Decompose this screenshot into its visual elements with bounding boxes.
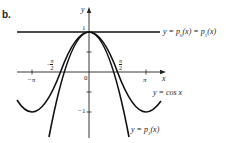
y-axis-arrow-icon [87, 7, 91, 13]
origin-label: 0 [84, 75, 88, 82]
y-tick-label-1: 1 [82, 25, 86, 32]
y-tick-label-neg1: −1 [78, 108, 85, 115]
panel-label: b. [2, 10, 11, 20]
label-cos: y = cos x [153, 89, 182, 97]
plot-canvas [0, 0, 226, 143]
x-tick-label-pi: π [143, 77, 147, 84]
label-p0-p1: y = p0(x) = p1(x) [163, 28, 216, 38]
x-tick-label-pi-half: π 2 [119, 58, 122, 71]
x-tick-label-neg-pi: −π [27, 77, 35, 84]
x-tick-label-neg-pi-half: − π 2 [47, 58, 53, 71]
y-axis-label: y [81, 6, 85, 14]
x-axis-label: x [162, 75, 166, 83]
label-p2: y = p2(x) [131, 126, 159, 136]
figure: b. y x 1 −1 0 −π π − π 2 π 2 y = p0(x) =… [0, 0, 226, 143]
